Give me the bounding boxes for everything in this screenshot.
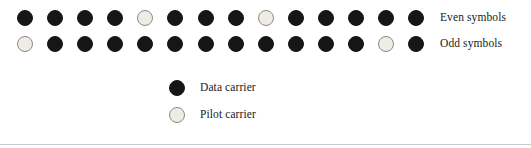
carrier-cell bbox=[258, 36, 274, 52]
carrier-cell bbox=[137, 10, 153, 26]
carrier-cell bbox=[378, 36, 394, 52]
carrier-cell bbox=[288, 36, 304, 52]
carrier-cell bbox=[318, 10, 334, 26]
carrier-cell bbox=[258, 10, 274, 26]
carrier-cell bbox=[198, 10, 214, 26]
carrier-cell bbox=[17, 10, 33, 26]
carrier-cell bbox=[348, 10, 364, 26]
carrier-cell bbox=[137, 36, 153, 52]
carrier-cell bbox=[228, 10, 244, 26]
carrier-cell bbox=[378, 10, 394, 26]
legend-swatch-data-carrier bbox=[169, 80, 185, 96]
carrier-cell bbox=[408, 10, 424, 26]
carrier-cell bbox=[47, 36, 63, 52]
carrier-cell bbox=[77, 36, 93, 52]
carrier-cell bbox=[77, 10, 93, 26]
row-label-odd: Odd symbols bbox=[440, 37, 502, 49]
carrier-row-even bbox=[0, 10, 440, 30]
carrier-cell bbox=[167, 10, 183, 26]
carrier-cell bbox=[17, 36, 33, 52]
carrier-cell bbox=[318, 36, 334, 52]
carrier-cell bbox=[348, 36, 364, 52]
carrier-row-odd bbox=[0, 36, 440, 56]
legend-label-data-carrier: Data carrier bbox=[200, 81, 256, 93]
carrier-cell bbox=[107, 10, 123, 26]
carrier-cell bbox=[107, 36, 123, 52]
bottom-divider bbox=[0, 144, 531, 145]
legend-label-pilot-carrier: Pilot carrier bbox=[200, 108, 256, 120]
carrier-cell bbox=[228, 36, 244, 52]
carrier-cell bbox=[408, 36, 424, 52]
carrier-cell bbox=[288, 10, 304, 26]
legend-swatch-pilot-carrier bbox=[169, 107, 185, 123]
carrier-cell bbox=[198, 36, 214, 52]
pilot-pattern-figure: Even symbols Odd symbols Data carrier Pi… bbox=[0, 0, 531, 148]
carrier-cell bbox=[167, 36, 183, 52]
row-label-even: Even symbols bbox=[440, 11, 506, 23]
carrier-cell bbox=[47, 10, 63, 26]
